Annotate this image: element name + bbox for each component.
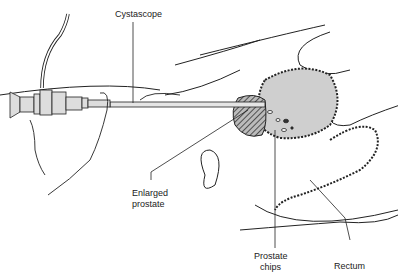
- bladder: [258, 69, 338, 139]
- label-prostate-chips-2: chips: [260, 262, 281, 273]
- abdomen-outline: [200, 25, 325, 55]
- label-cystoscope: Cystascope: [115, 9, 162, 20]
- cystoscope-body: [10, 90, 110, 118]
- label-rectum: Rectum: [334, 261, 365, 272]
- label-enlarged-prostate-1: Enlarged: [132, 188, 168, 199]
- diagram-illustration: [0, 0, 398, 277]
- label-enlarged-prostate-2: prostate: [132, 199, 165, 210]
- label-prostate-chips-1: Prostate: [254, 251, 288, 262]
- urethra-loop: [201, 150, 219, 188]
- enlarged-prostate: [233, 95, 266, 136]
- cystoscopy-diagram: Cystascope Enlarged prostate Prostate ch…: [0, 0, 398, 277]
